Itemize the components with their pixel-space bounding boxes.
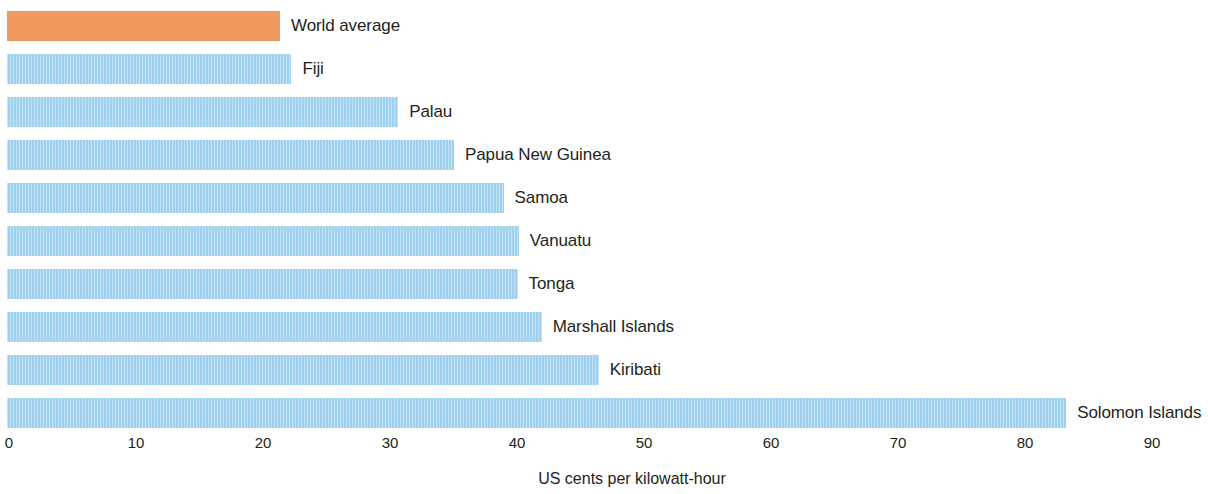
x-axis-tick-label: 0 — [5, 434, 13, 451]
bar-label: Solomon Islands — [1077, 398, 1201, 428]
bar-row: World average — [0, 11, 1208, 41]
x-axis-tick-label: 60 — [763, 434, 780, 451]
x-axis-tick-label: 70 — [890, 434, 907, 451]
bar-label: Palau — [409, 97, 452, 127]
x-axis-tick-label: 10 — [128, 434, 145, 451]
bar-row: Samoa — [0, 183, 1208, 213]
bar-label: Tonga — [529, 269, 575, 299]
bar — [7, 312, 542, 342]
x-axis-tick-label: 90 — [1144, 434, 1161, 451]
bar-row: Marshall Islands — [0, 312, 1208, 342]
bar-label: World average — [291, 11, 400, 41]
bar — [7, 140, 454, 170]
bar-label: Marshall Islands — [553, 312, 674, 342]
bar — [7, 97, 398, 127]
horizontal-bar-chart: World averageFijiPalauPapua New GuineaSa… — [0, 0, 1208, 494]
x-axis-tick-label: 40 — [509, 434, 526, 451]
bar-label: Samoa — [515, 183, 568, 213]
bar-row: Palau — [0, 97, 1208, 127]
bar-row: Tonga — [0, 269, 1208, 299]
bar — [7, 398, 1066, 428]
x-axis: 0102030405060708090 — [0, 434, 1208, 466]
x-axis-tick-label: 20 — [255, 434, 272, 451]
bar-label: Kiribati — [610, 355, 661, 385]
bar-row: Kiribati — [0, 355, 1208, 385]
bar — [7, 11, 280, 41]
bar-row: Solomon Islands — [0, 398, 1208, 428]
bar-row: Vanuatu — [0, 226, 1208, 256]
x-axis-tick-label: 80 — [1017, 434, 1034, 451]
bar — [7, 355, 599, 385]
bar — [7, 54, 291, 84]
bar — [7, 226, 519, 256]
x-axis-caption: US cents per kilowatt-hour — [0, 470, 1208, 488]
plot-area: World averageFijiPalauPapua New GuineaSa… — [0, 0, 1208, 434]
bar-label: Vanuatu — [530, 226, 591, 256]
bar-label: Fiji — [302, 54, 323, 84]
x-axis-tick-label: 50 — [636, 434, 653, 451]
x-axis-tick-label: 30 — [382, 434, 399, 451]
bar — [7, 183, 504, 213]
bar-label: Papua New Guinea — [465, 140, 611, 170]
x-axis-caption-label: US cents per kilowatt-hour — [538, 470, 726, 488]
bar — [7, 269, 518, 299]
bar-row: Fiji — [0, 54, 1208, 84]
bar-row: Papua New Guinea — [0, 140, 1208, 170]
